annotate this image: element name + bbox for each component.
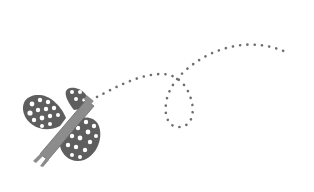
tail-left <box>33 153 44 163</box>
butterfly-icon <box>23 88 100 167</box>
tail-right <box>40 158 49 167</box>
butterfly-illustration <box>0 0 314 192</box>
dotted-flight-trail <box>97 45 286 127</box>
